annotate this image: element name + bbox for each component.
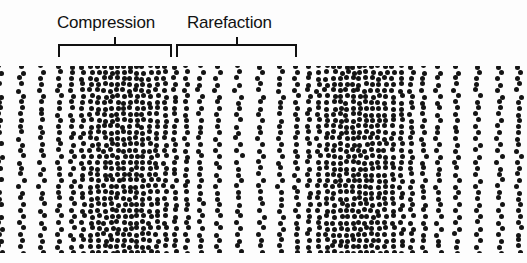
particle-dot <box>37 88 42 93</box>
particle-dot <box>363 99 368 104</box>
particle-dot <box>156 93 161 98</box>
particle-dot <box>409 231 414 236</box>
particle-dot <box>324 201 329 206</box>
particle-dot <box>120 87 125 92</box>
particle-dot <box>90 225 95 230</box>
particle-dot <box>122 117 127 122</box>
particle-dot <box>316 105 321 110</box>
particle-dot <box>89 106 94 111</box>
particle-dot <box>452 231 457 236</box>
particle-dot <box>322 87 327 92</box>
particle-dot <box>89 177 94 182</box>
particle-dot <box>438 155 443 160</box>
particle-dot <box>364 225 369 230</box>
particle-dot <box>42 201 47 206</box>
particle-dot <box>316 238 321 243</box>
particle-dot <box>174 178 179 183</box>
particle-dot <box>70 105 75 110</box>
particle-dot <box>375 220 380 225</box>
particle-dot <box>277 243 282 248</box>
particle-dot <box>356 76 361 81</box>
particle-dot <box>155 119 160 124</box>
particle-dot <box>433 185 438 190</box>
particle-dot <box>343 101 348 106</box>
particle-dot <box>97 213 102 218</box>
particle-dot <box>127 136 132 141</box>
particle-dot <box>422 71 427 76</box>
particle-dot <box>517 118 522 123</box>
particle-dot <box>338 141 343 146</box>
particle-dot <box>357 117 362 122</box>
particle-dot <box>109 106 114 111</box>
particle-dot <box>281 95 286 100</box>
particle-dot <box>217 202 222 207</box>
particle-dot <box>408 135 413 140</box>
particle-dot <box>183 245 188 250</box>
particle-dot <box>399 195 404 200</box>
particle-dot <box>317 117 322 122</box>
particle-dot <box>146 89 151 94</box>
particle-dot <box>477 251 482 253</box>
particle-dot <box>135 250 140 253</box>
particle-dot <box>56 147 61 152</box>
particle-dot <box>410 191 415 196</box>
particle-dot <box>369 196 374 201</box>
particle-dot <box>163 113 168 118</box>
particle-dot <box>183 232 188 237</box>
particle-dot <box>339 226 344 231</box>
particle-dot <box>0 95 4 100</box>
particle-dot <box>174 118 179 123</box>
particle-dot <box>519 225 524 230</box>
particle-dot <box>400 154 405 159</box>
particle-dot <box>391 177 396 182</box>
particle-dot <box>218 225 223 230</box>
particle-dot <box>164 153 169 158</box>
particle-dot <box>318 250 323 253</box>
particle-dot <box>307 141 312 146</box>
particle-dot <box>90 215 95 220</box>
particle-dot <box>122 249 127 253</box>
particle-dot <box>323 77 328 82</box>
particle-dot <box>147 160 152 165</box>
particle-dot <box>173 82 178 87</box>
particle-dot <box>140 137 145 142</box>
particle-dot <box>351 167 356 172</box>
particle-dot <box>234 75 239 80</box>
particle-dot <box>369 178 374 183</box>
particle-dot <box>89 203 94 208</box>
particle-dot <box>115 93 120 98</box>
particle-dot <box>337 233 342 238</box>
particle-dot <box>277 124 282 129</box>
particle-dot <box>294 124 299 129</box>
particle-dot <box>121 106 126 111</box>
particle-dot <box>437 178 442 183</box>
particle-dot <box>103 189 108 194</box>
particle-dot <box>133 135 138 140</box>
particle-dot <box>410 238 415 243</box>
particle-dot <box>278 130 283 135</box>
particle-dot <box>258 107 263 112</box>
particle-dot <box>82 213 87 218</box>
particle-dot <box>391 213 396 218</box>
particle-dot <box>104 215 109 220</box>
particle-dot <box>435 130 440 135</box>
particle-dot <box>108 75 113 80</box>
particle-dot <box>164 237 169 242</box>
particle-dot <box>325 178 330 183</box>
particle-dot <box>453 149 458 154</box>
particle-dot <box>121 232 126 237</box>
particle-dot <box>476 130 481 135</box>
particle-dot <box>103 135 108 140</box>
particle-dot <box>154 165 159 170</box>
particle-dot <box>239 95 244 100</box>
particle-dot <box>38 76 43 81</box>
particle-dot <box>397 185 402 190</box>
particle-dot <box>121 196 126 201</box>
particle-dot <box>72 225 77 230</box>
particle-dot <box>240 153 245 158</box>
particle-dot <box>337 135 342 140</box>
particle-dot <box>331 233 336 238</box>
particle-dot <box>278 221 283 226</box>
particle-dot <box>215 83 220 88</box>
particle-dot <box>363 123 368 128</box>
